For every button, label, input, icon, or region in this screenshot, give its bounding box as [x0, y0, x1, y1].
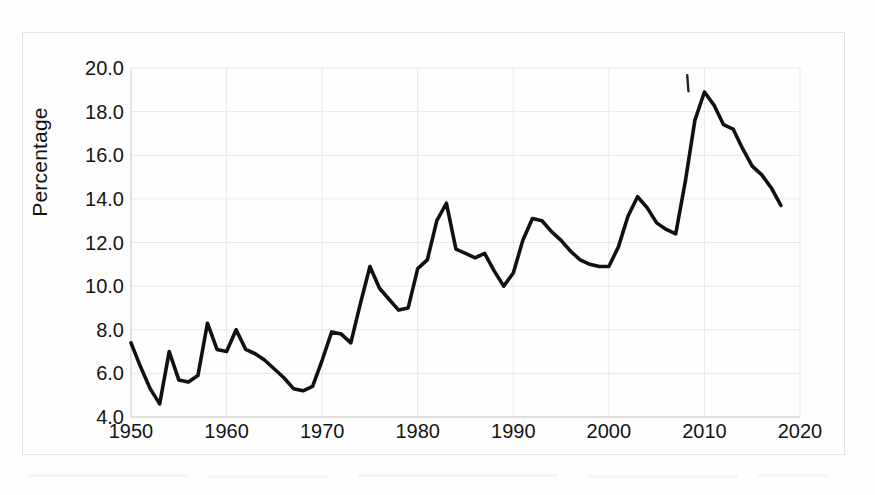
figure-container: Percentage 20.018.016.014.012.010.08.06.…: [0, 0, 875, 495]
annotation-group: [687, 75, 688, 91]
caption-residue: [28, 470, 828, 482]
line-chart: Percentage 20.018.016.014.012.010.08.06.…: [0, 0, 875, 495]
data-series-group: [131, 92, 781, 404]
gridlines: [131, 68, 800, 417]
plot-svg: [0, 0, 875, 495]
